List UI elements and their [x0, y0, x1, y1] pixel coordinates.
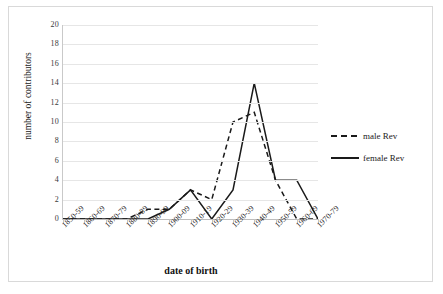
legend-label-female: female Rev — [363, 153, 404, 163]
y-tick-label: 16 — [37, 60, 59, 68]
gridline — [63, 200, 318, 201]
y-tick-label: 14 — [37, 79, 59, 87]
gridline — [63, 44, 318, 45]
gridline — [63, 161, 318, 162]
y-axis-title: number of contributors — [23, 16, 33, 176]
plot-area — [63, 25, 318, 219]
gridline — [63, 64, 318, 65]
y-axis-tick-labels: 02468101214161820 — [33, 25, 59, 219]
chart-frame: number of contributors 02468101214161820… — [8, 6, 433, 282]
gridline — [63, 25, 318, 26]
y-tick-label: 10 — [37, 118, 59, 126]
y-tick-label: 18 — [37, 40, 59, 48]
x-axis-tick-labels: 1850-591860-691870-791880-891890-991900-… — [9, 223, 339, 269]
gridline — [63, 83, 318, 84]
gridline — [63, 122, 318, 123]
legend-swatch-solid-icon — [331, 153, 361, 163]
gridline — [63, 180, 318, 181]
y-tick-label: 8 — [37, 137, 59, 145]
gridline — [63, 103, 318, 104]
gridline — [63, 141, 318, 142]
x-axis-title: date of birth — [63, 265, 319, 276]
x-tick-label: 1970-79 — [315, 204, 341, 230]
y-tick-label: 6 — [37, 157, 59, 165]
y-tick-label: 20 — [37, 21, 59, 29]
y-tick-label: 2 — [37, 196, 59, 204]
legend: male Rev female Rev — [331, 125, 431, 169]
legend-label-male: male Rev — [363, 131, 397, 141]
legend-swatch-dashed-icon — [331, 131, 361, 141]
y-tick-label: 0 — [37, 215, 59, 223]
legend-item-female: female Rev — [331, 147, 431, 169]
series-line-male-rev — [63, 112, 318, 219]
legend-item-male: male Rev — [331, 125, 431, 147]
y-tick-label: 4 — [37, 176, 59, 184]
y-tick-label: 12 — [37, 99, 59, 107]
